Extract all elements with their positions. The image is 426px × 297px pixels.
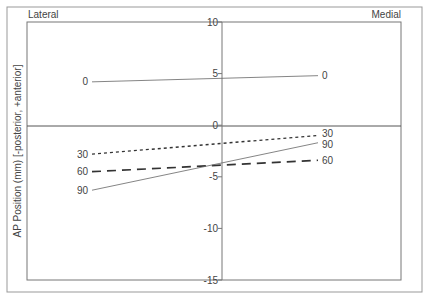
- series-label-left-0: 0: [82, 76, 88, 87]
- series-label-right-30: 30: [322, 128, 334, 139]
- series-label-left-30: 30: [77, 149, 89, 160]
- y-tick-label: 5: [212, 68, 218, 79]
- corner-label-medial: Medial: [372, 9, 401, 20]
- y-axis-label: AP Position (mm) [-posterior, +anterior]: [12, 64, 23, 237]
- series-label-right-0: 0: [322, 70, 328, 81]
- series-label-right-90: 90: [322, 139, 334, 150]
- y-tick-label: -5: [209, 171, 218, 182]
- y-tick-label: -10: [204, 223, 219, 234]
- y-tick-label: -15: [204, 275, 219, 286]
- corner-label-lateral: Lateral: [28, 9, 59, 20]
- series-label-left-60: 60: [77, 166, 89, 177]
- chart: Lateral Medial AP Position (mm) [-poster…: [0, 0, 426, 297]
- series-label-left-90: 90: [77, 185, 89, 196]
- y-tick-label: 0: [212, 120, 218, 131]
- y-tick-label: 10: [207, 17, 219, 28]
- series-label-right-60: 60: [322, 155, 334, 166]
